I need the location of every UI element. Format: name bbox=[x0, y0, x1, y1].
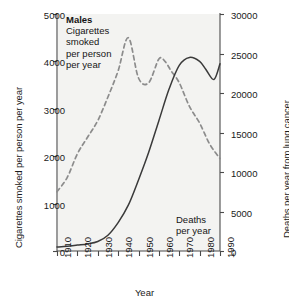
left-axis-tick-label: 1000 bbox=[44, 199, 65, 210]
cigarettes-series-label: Males Cigarettes smoked per person per y… bbox=[66, 14, 111, 70]
right-axis-tick-label: 15000 bbox=[231, 128, 257, 139]
cigarettes-label-line2: smoked bbox=[66, 36, 111, 47]
x-axis-tick-label: 1940 bbox=[123, 237, 134, 258]
deaths-label-line2: per year bbox=[176, 225, 211, 236]
x-axis-tick-label: 1980 bbox=[205, 237, 216, 258]
right-axis-tick-label: 25000 bbox=[231, 49, 257, 60]
x-axis-tick-label: 1930 bbox=[103, 237, 114, 258]
x-axis-tick-label: 1990 bbox=[225, 237, 236, 258]
cigarettes-label-line1: Cigarettes bbox=[66, 25, 111, 36]
right-axis-tick-label: 5000 bbox=[231, 207, 252, 218]
x-axis-tick-label: 1960 bbox=[164, 237, 175, 258]
chart-figure: Cigarettes smoked per person per year De… bbox=[0, 0, 289, 305]
right-axis-tick-label: 20000 bbox=[231, 88, 257, 99]
right-axis-tick-label: 10000 bbox=[231, 167, 257, 178]
x-axis-tick-label: 1910 bbox=[62, 237, 73, 258]
right-axis-tick-label: 30000 bbox=[231, 9, 257, 20]
left-axis-tick-label: 3000 bbox=[44, 104, 65, 115]
left-axis-tick-label: 4000 bbox=[44, 56, 65, 67]
left-axis-tick-label: 2000 bbox=[44, 151, 65, 162]
left-axis-tick-label: 5000 bbox=[44, 9, 65, 20]
males-label: Males bbox=[66, 14, 111, 25]
right-axis-title: Deaths per year from lung cancer bbox=[281, 100, 289, 238]
cigarettes-label-line4: per year bbox=[66, 59, 111, 70]
x-axis-tick-label: 1920 bbox=[82, 237, 93, 258]
x-axis-tick-label: 1950 bbox=[144, 237, 155, 258]
deaths-label-line1: Deaths bbox=[176, 214, 211, 225]
cigarettes-label-line3: per person bbox=[66, 48, 111, 59]
x-axis-tick-label: 1970 bbox=[184, 237, 195, 258]
deaths-series-label: Deaths per year bbox=[176, 214, 211, 236]
left-axis-title: Cigarettes smoked per person per year bbox=[13, 87, 24, 248]
x-axis-title: Year bbox=[0, 287, 289, 298]
